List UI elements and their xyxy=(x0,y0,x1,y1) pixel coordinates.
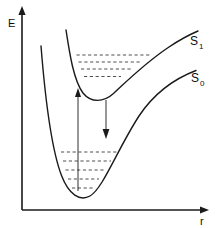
state-label-s0-letter: S xyxy=(191,71,199,85)
state-label-s1-subscript: 1 xyxy=(199,42,204,51)
state-label-s1-letter: S xyxy=(190,34,198,48)
state-label-s0-subscript: 0 xyxy=(200,79,205,88)
x-axis-label: r xyxy=(200,215,204,227)
potential-energy-diagram: E r xyxy=(0,0,218,228)
diagram-canvas: E r xyxy=(0,0,218,228)
y-axis-label: E xyxy=(8,17,15,29)
canvas-background xyxy=(0,0,218,228)
